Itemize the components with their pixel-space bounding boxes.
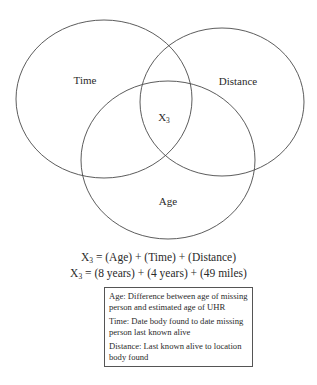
age-label: Age bbox=[159, 195, 177, 207]
legend-box: Age: Difference between age of missing p… bbox=[104, 287, 253, 367]
age-circle bbox=[81, 81, 255, 239]
eq2-rhs: = (8 years) + (4 years) + (49 miles) bbox=[85, 267, 247, 279]
intersection-subscript: 3 bbox=[166, 116, 170, 125]
equation-formula: X3 = (Age) + (Time) + (Distance) bbox=[0, 250, 317, 264]
time-label: Time bbox=[74, 74, 97, 86]
eq2-sub: 3 bbox=[78, 272, 82, 281]
legend-distance: Distance: Last known alive to location b… bbox=[109, 341, 248, 362]
intersection-base: X bbox=[158, 111, 166, 123]
distance-circle bbox=[140, 28, 304, 176]
eq1-sub: 3 bbox=[89, 256, 93, 265]
legend-time: Time: Date body found to date missing pe… bbox=[109, 316, 248, 337]
eq1-rhs: = (Age) + (Time) + (Distance) bbox=[96, 251, 236, 263]
intersection-label: X3 bbox=[158, 111, 170, 123]
distance-label: Distance bbox=[219, 75, 257, 87]
equation-values: X3 = (8 years) + (4 years) + (49 miles) bbox=[0, 266, 317, 280]
venn-diagram bbox=[0, 0, 317, 250]
time-circle bbox=[16, 20, 192, 178]
legend-age: Age: Difference between age of missing p… bbox=[109, 291, 248, 312]
